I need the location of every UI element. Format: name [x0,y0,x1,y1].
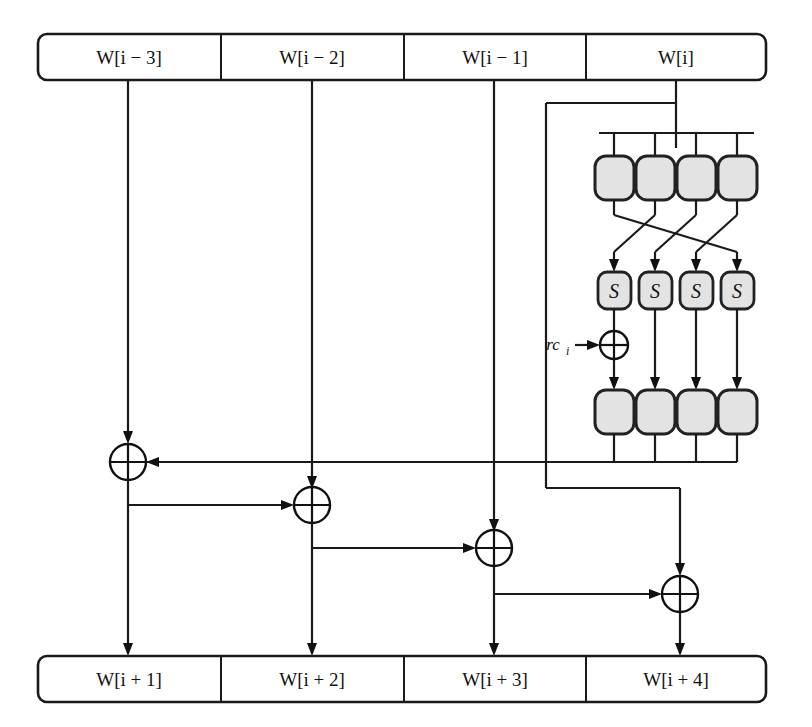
input-cell-label-1: W[i − 2] [279,47,345,68]
xor-round-constant [600,331,628,359]
xor-w-i-plus-1 [110,444,146,480]
subword-sboxes: S S S S [598,272,754,309]
byte-box-top-2 [677,156,716,200]
subword-output-bytes [595,390,757,434]
diagram-canvas: W[i − 3] W[i − 2] W[i − 1] W[i] [0,0,812,727]
sbox-output-wires [609,309,742,390]
output-cell-label-1: W[i + 2] [279,669,345,690]
byte-box-bottom-0 [595,390,634,434]
xor-w-i-plus-2 [294,487,330,523]
round-constant-subscript: i [566,344,569,358]
xor-w-i-plus-3 [476,530,512,566]
xor-w-i-plus-4 [662,576,698,612]
round-constant-input: rc i [546,335,600,358]
sbox-label-0: S [609,280,619,302]
byte-box-bottom-3 [718,390,757,434]
sbox-label-2: S [691,280,701,302]
output-cell-label-3: W[i + 4] [643,669,709,690]
input-cell-label-0: W[i − 3] [96,47,162,68]
xor-cascade-wires [123,480,685,656]
output-word-register: W[i + 1] W[i + 2] W[i + 3] W[i + 4] [38,656,766,702]
round-constant-label: rc [546,335,560,354]
output-cell-label-2: W[i + 3] [462,669,528,690]
word-drop-wires [123,80,676,532]
byte-box-top-3 [718,156,757,200]
byte-box-bottom-1 [636,390,675,434]
byte-box-top-0 [595,156,634,200]
subword-merge-bus [146,434,737,467]
rotword-input-bytes [595,156,757,200]
input-cell-label-2: W[i − 1] [462,47,528,68]
input-cell-label-3: W[i] [658,47,694,68]
byte-box-top-1 [636,156,675,200]
input-word-register: W[i − 3] W[i − 2] W[i − 1] W[i] [38,34,766,80]
output-cell-label-0: W[i + 1] [96,669,162,690]
sbox-label-3: S [732,280,742,302]
rotword-rotation-wires [609,200,742,272]
sbox-label-1: S [650,280,660,302]
byte-box-bottom-2 [677,390,716,434]
key-schedule-diagram: W[i − 3] W[i − 2] W[i − 1] W[i] [0,0,812,727]
